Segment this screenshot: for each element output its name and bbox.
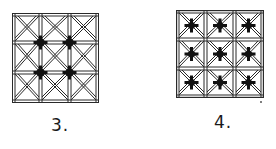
figure-4-pattern: [176, 10, 264, 98]
lattice-grid-icon: [176, 10, 264, 98]
figure-4-label: 4.: [214, 114, 232, 131]
stray-dot: [260, 101, 262, 103]
figure-3-label: 3.: [51, 117, 69, 134]
lattice-grid-icon: [12, 13, 99, 103]
figure-3-pattern: [12, 13, 99, 103]
